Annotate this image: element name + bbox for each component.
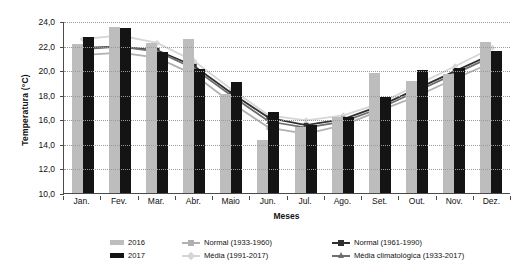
legend-item[interactable]: Normal (1933-1960) (182, 238, 332, 247)
bar-series-layer (64, 22, 510, 193)
month-group (436, 22, 473, 193)
x-tick-label: Set. (361, 196, 398, 212)
y-tick-mark (60, 96, 64, 97)
legend-label: Normal (1961-1990) (354, 238, 422, 247)
legend-swatch-line (182, 251, 200, 260)
legend-item[interactable]: Normal (1961-1990) (332, 238, 510, 247)
x-tick-label: Abr. (175, 196, 212, 212)
x-tick-mark (510, 196, 511, 200)
y-tick-mark (60, 47, 64, 48)
month-group (213, 22, 250, 193)
month-group (361, 22, 398, 193)
y-tick-mark (60, 145, 64, 146)
x-tick-label: Maio (212, 196, 249, 212)
month-group (138, 22, 175, 193)
y-tick-mark (60, 120, 64, 121)
month-group (324, 22, 361, 193)
x-axis-labels: Jan.Fev.Mar.Abr.MaioJun.Jul.Ago.Set.Out.… (63, 196, 510, 212)
y-tick-label: 24,0 (21, 17, 55, 27)
temperature-chart: Temperatura (°C) 24,022,020,018,016,014,… (0, 0, 519, 275)
x-tick-mark (361, 196, 362, 200)
bar-2016 (406, 81, 417, 193)
x-tick-label: Jun. (249, 196, 286, 212)
y-tick-label: 10,0 (21, 189, 55, 199)
legend-item[interactable]: 2017 (110, 251, 182, 260)
legend-item[interactable]: Média (1991-2017) (182, 251, 332, 260)
x-tick-mark (287, 196, 288, 200)
legend-label: 2017 (128, 251, 145, 260)
x-tick-mark (473, 196, 474, 200)
x-axis-title: Meses (63, 211, 510, 221)
grid-line (64, 120, 510, 121)
month-group (473, 22, 510, 193)
plot-area: 24,022,020,018,016,014,012,010,0 (63, 22, 510, 194)
y-tick-label: 16,0 (21, 115, 55, 125)
y-tick-label: 22,0 (21, 42, 55, 52)
x-tick-mark (324, 196, 325, 200)
month-group (64, 22, 101, 193)
grid-line (64, 145, 510, 146)
bar-2017 (120, 28, 131, 193)
y-tick-label: 18,0 (21, 91, 55, 101)
bar-2016 (146, 43, 157, 193)
x-tick-label: Fev. (100, 196, 137, 212)
bar-2016 (369, 73, 380, 193)
bar-2016 (72, 44, 83, 193)
legend-label: 2016 (128, 238, 145, 247)
x-tick-label: Ago. (324, 196, 361, 212)
bar-2017 (417, 70, 428, 193)
month-group (399, 22, 436, 193)
month-group (176, 22, 213, 193)
legend-swatch-line (182, 238, 200, 247)
grid-line (64, 47, 510, 48)
y-tick-label: 20,0 (21, 66, 55, 76)
grid-line (64, 22, 510, 23)
bar-2016 (109, 27, 120, 193)
bar-2016 (220, 94, 231, 194)
y-tick-mark (60, 169, 64, 170)
y-tick-mark (60, 194, 64, 195)
bar-2016 (295, 127, 306, 193)
x-tick-label: Nov. (436, 196, 473, 212)
x-tick-label: Mar. (138, 196, 175, 212)
x-tick-mark (100, 196, 101, 200)
x-tick-mark (212, 196, 213, 200)
y-tick-label: 14,0 (21, 140, 55, 150)
bar-2017 (454, 68, 465, 193)
legend-swatch-line (332, 251, 350, 260)
x-tick-label: Dez. (473, 196, 510, 212)
grid-line (64, 71, 510, 72)
legend-label: Normal (1933-1960) (204, 238, 272, 247)
legend-swatch-bar (110, 253, 124, 258)
x-tick-label: Out. (398, 196, 435, 212)
x-tick-mark (175, 196, 176, 200)
bar-2017 (157, 52, 168, 193)
x-tick-mark (138, 196, 139, 200)
x-tick-mark (436, 196, 437, 200)
bar-2016 (443, 74, 454, 193)
bar-2017 (268, 112, 279, 193)
month-group (287, 22, 324, 193)
x-tick-mark (63, 196, 64, 200)
bar-2017 (343, 117, 354, 193)
y-tick-mark (60, 22, 64, 23)
legend-item[interactable]: 2016 (110, 238, 182, 247)
month-group (250, 22, 287, 193)
x-tick-label: Jan. (63, 196, 100, 212)
legend-label: Média (1991-2017) (204, 251, 268, 260)
grid-line (64, 169, 510, 170)
chart-legend: 2016Normal (1933-1960)Normal (1961-1990)… (110, 236, 510, 262)
x-tick-mark (249, 196, 250, 200)
bar-2016 (332, 117, 343, 193)
grid-line (64, 96, 510, 97)
legend-swatch-bar (110, 240, 124, 245)
bar-2017 (231, 82, 242, 193)
bar-2016 (257, 140, 268, 193)
month-group (101, 22, 138, 193)
x-tick-mark (398, 196, 399, 200)
bar-2017 (306, 125, 317, 193)
legend-swatch-line (332, 238, 350, 247)
y-tick-label: 12,0 (21, 164, 55, 174)
legend-item[interactable]: Média climatológica (1933-2017) (332, 251, 510, 260)
legend-label: Média climatológica (1933-2017) (354, 251, 464, 260)
